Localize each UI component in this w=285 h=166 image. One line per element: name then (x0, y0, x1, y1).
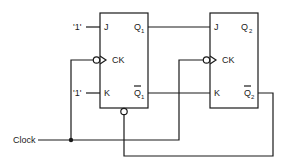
clock-input-label: Clock (13, 135, 36, 145)
ff1-j-label: J (104, 22, 109, 32)
k1-input-label: '1' (73, 88, 82, 98)
ff1-qbar-label: Q (134, 88, 141, 98)
ff2-ck-bubble-icon (203, 57, 209, 63)
ff2-qbar-subscript: 2 (251, 94, 255, 100)
ff2-q-label: Q (241, 22, 248, 32)
ff1-qbar-subscript: 1 (141, 94, 145, 100)
ff2-k-label: K (214, 88, 220, 98)
ff2-qbar-label: Q (244, 88, 251, 98)
circuit-diagram: J CK K Q 1 Q 1 J CK K Q 2 Q 2 '1' '1' Cl… (0, 0, 285, 166)
ff1-ck-bubble-icon (93, 57, 99, 63)
ff1-k-label: K (104, 88, 110, 98)
ff1-q-subscript: 1 (141, 28, 145, 34)
ff2-clock-triangle-icon (210, 56, 216, 64)
ff1-bottom-bubble-icon (121, 108, 127, 114)
j1-input-label: '1' (73, 22, 82, 32)
clock-junction-dot (69, 138, 73, 142)
ff1-q-label: Q (134, 22, 141, 32)
ff2-j-label: J (214, 22, 219, 32)
ff1-ck-label: CK (112, 55, 125, 65)
ff2-ck-label: CK (222, 55, 235, 65)
ff2-q-subscript: 2 (249, 28, 253, 34)
clock-wire (38, 60, 203, 140)
clock-to-ff1-wire (71, 60, 93, 140)
ff1-clock-triangle-icon (100, 56, 106, 64)
q2bar-feedback-wire (124, 93, 273, 156)
